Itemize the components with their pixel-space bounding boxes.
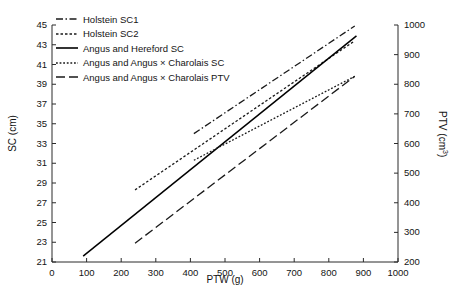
- y-left-tick-label: 29: [17, 178, 47, 188]
- y-left-tick-label: 43: [17, 40, 47, 50]
- y-left-tick-label: 41: [17, 60, 47, 70]
- y-right-tick-label: 500: [404, 168, 438, 178]
- legend-item[interactable]: Holstein SC1: [56, 13, 230, 25]
- y-left-tick-label: 27: [17, 198, 47, 208]
- long-dash-line-icon: [56, 72, 78, 82]
- y-right-tick-label: 700: [404, 109, 438, 119]
- y-axis-right-title-tail: ): [437, 154, 448, 157]
- y-axis-right-tickmarks: [394, 25, 398, 262]
- fine-dotted-line-icon: [56, 58, 78, 68]
- y-right-tick-label: 900: [404, 50, 438, 60]
- y-left-tick-label: 35: [17, 119, 47, 129]
- y-left-tick-label: 25: [17, 218, 47, 228]
- y-right-tick-label: 1000: [404, 20, 438, 30]
- x-axis-title: PTW (g): [185, 274, 265, 285]
- legend-item-label: Angus and Angus × Charolais PTV: [83, 72, 230, 83]
- x-tick-label: 1000: [378, 268, 418, 278]
- legend-item[interactable]: Angus and Hereford SC: [56, 42, 230, 54]
- solid-line-icon: [56, 43, 78, 53]
- y-axis-right-title-main: PTV (cm: [437, 111, 448, 150]
- y-right-tick-label: 600: [404, 139, 438, 149]
- y-left-tick-label: 37: [17, 99, 47, 109]
- y-left-tick-label: 23: [17, 237, 47, 247]
- legend-item-label: Holstein SC1: [83, 14, 138, 25]
- y-left-tick-label: 31: [17, 158, 47, 168]
- y-right-tick-label: 200: [404, 257, 438, 267]
- y-axis-right-title: PTV (cm3): [437, 101, 449, 167]
- y-right-tick-label: 300: [404, 227, 438, 237]
- y-left-tick-label: 45: [17, 20, 47, 30]
- legend-item[interactable]: Angus and Angus × Charolais PTV: [56, 71, 230, 83]
- y-left-tick-label: 33: [17, 139, 47, 149]
- dash-dot-line-icon: [56, 14, 78, 24]
- y-left-tick-label: 39: [17, 79, 47, 89]
- legend-item[interactable]: Holstein SC2: [56, 28, 230, 40]
- y-right-tick-label: 800: [404, 79, 438, 89]
- y-right-tick-label: 400: [404, 198, 438, 208]
- legend-item-label: Angus and Hereford SC: [83, 43, 184, 54]
- legend-item-label: Holstein SC2: [83, 28, 138, 39]
- dotted-line-icon: [56, 29, 78, 39]
- legend-item-label: Angus and Angus × Charolais SC: [83, 57, 224, 68]
- chart-legend: Holstein SC1Holstein SC2Angus and Herefo…: [56, 13, 230, 83]
- chart-figure: 45434139373533312927252321 1000900800700…: [0, 0, 450, 292]
- series-line-4: [135, 76, 355, 243]
- x-axis-tickmarks: [52, 258, 398, 262]
- y-left-tick-label: 21: [17, 257, 47, 267]
- legend-item[interactable]: Angus and Angus × Charolais SC: [56, 57, 230, 69]
- y-axis-left-title: SC (cm): [7, 104, 18, 164]
